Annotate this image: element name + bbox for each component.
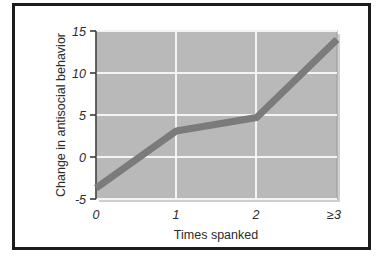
y-tick-label-neg5: -5 <box>75 193 86 207</box>
x-axis-title: Times spanked <box>174 228 258 242</box>
line-chart: 15 10 5 0 -5 Change in antisocial behavi… <box>0 0 379 264</box>
y-tick-label-10: 10 <box>72 67 86 81</box>
y-tick-label-5: 5 <box>79 109 86 123</box>
figure-container: 15 10 5 0 -5 Change in antisocial behavi… <box>0 0 379 264</box>
x-tick-label-2: 2 <box>252 208 260 222</box>
y-axis-title: Change in antisocial behavior <box>54 33 68 197</box>
x-tick-label-0: 0 <box>93 208 100 222</box>
y-tick-label-15: 15 <box>72 25 86 39</box>
y-axis-ticks <box>90 31 96 199</box>
y-tick-label-0: 0 <box>79 151 86 165</box>
x-tick-label-1: 1 <box>173 208 180 222</box>
x-tick-label-3plus: ≥3 <box>327 208 341 222</box>
